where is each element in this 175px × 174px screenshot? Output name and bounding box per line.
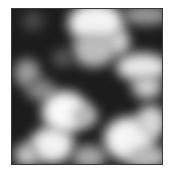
texture-blob	[108, 29, 130, 55]
texture-blob	[132, 75, 162, 99]
texture-blob	[122, 8, 163, 25]
texture-blob	[72, 145, 106, 165]
texture-blob	[14, 143, 40, 165]
texture-blob	[22, 11, 44, 31]
texture-blob	[128, 145, 163, 165]
texture-blob	[72, 105, 98, 127]
texture-blob	[136, 105, 163, 139]
texture-blob	[52, 49, 74, 67]
noise-texture-image	[11, 8, 163, 165]
